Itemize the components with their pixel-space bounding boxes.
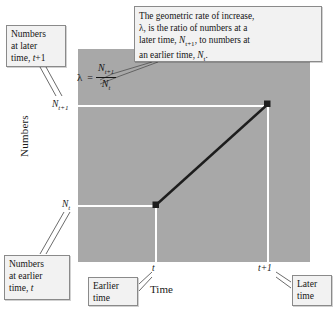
gridline-vertical-t [155,205,157,262]
callout-numbers-later-time: Numbers at later time, t+1 [6,25,66,67]
x-tick-label-t: t [152,263,155,273]
callout-earlier-line-3: time, t [9,283,33,293]
y-axis-label: Numbers [18,106,30,166]
fraction-numerator: Nt+1 [96,63,116,76]
callout-earlier-line-1: Numbers [9,259,44,269]
y-tick-label-n-t-plus-1: Nt+1 [52,99,69,112]
callout-main-line-4: an earlier time, Nt. [139,50,208,60]
denominator-subscript: t [108,84,110,91]
fraction-denominator: Nt [100,79,112,92]
gridline-vertical-t-plus-1 [267,105,269,262]
callout-later-line-2: at later [11,41,37,51]
numerator-base: N [98,62,105,73]
callout-later-time-line-1: Later [297,279,317,289]
gridline-horizontal-n-t-plus-1 [78,105,268,107]
callout-main-explanation: The geometric rate of increase, λ, is th… [134,6,322,62]
equals-symbol: = [87,72,93,83]
callout-earlier-time-line-2: time [93,293,110,303]
callout-later-line-3: time, t+1 [11,53,45,63]
callout-earlier-line-2: at earlier [9,271,43,281]
figure-canvas: λ = Nt+1 Nt Numbers Time Nt+1 Nt t t+1 T… [0,0,334,312]
callout-earlier-time-line-1: Earlier [93,281,119,291]
callout-later-time-tick: Later time [292,275,332,306]
callout-later-time-line-2: time [297,291,314,301]
numerator-subscript: t+1 [105,68,114,75]
lambda-equation: λ = Nt+1 Nt [77,63,116,92]
callout-numbers-earlier-time: Numbers at earlier time, t [4,255,70,300]
callout-later-line-1: Numbers [11,29,46,39]
x-tick-label-t-plus-1: t+1 [258,263,272,273]
callout-earlier-time-tick: Earlier time [88,277,138,306]
lambda-symbol: λ [77,71,82,83]
callout-main-line-1: The geometric rate of increase, [139,11,254,21]
y-tick-label-n-t: Nt [62,199,70,212]
callout-main-line-3: later time, Nt+1, to numbers at [139,35,250,45]
fraction: Nt+1 Nt [96,63,116,92]
gridline-horizontal-n-t [78,205,156,207]
x-axis-label: Time [150,283,173,295]
callout-main-line-2: λ, is the ratio of numbers at a [139,23,247,33]
